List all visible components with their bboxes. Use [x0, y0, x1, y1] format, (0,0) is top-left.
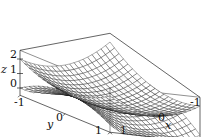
- y-axis-label: y: [46, 118, 54, 131]
- x-tick-0: 0: [158, 111, 165, 124]
- x-tick-neg1: -1: [190, 96, 201, 109]
- x-tick-1: 1: [120, 124, 127, 137]
- y-tick-neg1: -1: [14, 96, 25, 109]
- z-axis-label: z: [0, 63, 7, 76]
- y-tick-1: 1: [95, 124, 102, 137]
- z-tick-0: 0: [10, 77, 17, 90]
- z-tick-1: 1: [10, 63, 17, 76]
- surface-plot: z 2 1 0 -1 0 1 y 1 0 x -1: [0, 0, 203, 137]
- z-tick-2: 2: [10, 48, 17, 61]
- y-tick-0: 0: [56, 111, 63, 124]
- x-axis-label: x: [165, 119, 172, 132]
